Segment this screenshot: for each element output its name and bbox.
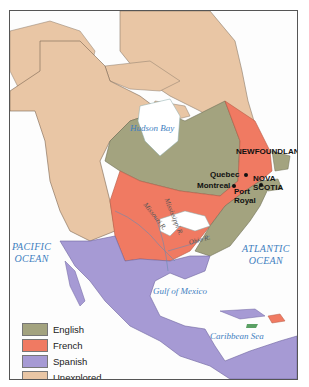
map-frame: Hudson Bay PACIFIC OCEAN ATLANTIC OCEAN …	[9, 10, 298, 380]
pacific-line1: PACIFIC	[12, 241, 51, 253]
port-royal-line2: Royal	[234, 196, 256, 205]
legend-label: Spanish	[53, 356, 87, 367]
nova-scotia-line2: SCOTIA	[253, 183, 283, 192]
pacific-line2: OCEAN	[12, 253, 51, 265]
legend-item-english: English	[22, 321, 102, 337]
english-swatch	[22, 323, 48, 336]
unexplored-swatch	[22, 371, 48, 381]
port-royal-label: Port Royal	[234, 187, 256, 205]
quebec-dot	[244, 173, 248, 177]
caribbean-sea-label: Caribbean Sea	[210, 331, 264, 341]
port-royal-dot	[259, 183, 263, 187]
quebec-label: Quebec	[210, 170, 239, 179]
french-swatch	[22, 339, 48, 352]
legend-item-unexplored: Unexplored	[22, 369, 102, 380]
legend-item-french: French	[22, 337, 102, 353]
legend-label: Unexplored	[53, 372, 102, 381]
nova-scotia-line1: NOVA	[253, 174, 283, 183]
atlantic-ocean-label: ATLANTIC OCEAN	[242, 243, 290, 267]
legend-label: French	[53, 340, 83, 351]
newfoundland-label: NEWFOUNDLAND	[236, 147, 298, 156]
nova-scotia-label: NOVA SCOTIA	[253, 174, 283, 192]
hispaniola-french	[268, 314, 285, 323]
spanish-swatch	[22, 355, 48, 368]
pacific-ocean-label: PACIFIC OCEAN	[12, 241, 51, 265]
cuba	[220, 309, 265, 319]
legend: English French Spanish Unexplored	[22, 321, 102, 380]
port-royal-line1: Port	[234, 187, 256, 196]
atlantic-line2: OCEAN	[242, 255, 290, 267]
gulf-of-mexico-label: Gulf of Mexico	[153, 286, 207, 296]
atlantic-line1: ATLANTIC	[242, 243, 290, 255]
legend-item-spanish: Spanish	[22, 353, 102, 369]
jamaica	[246, 324, 258, 328]
hudson-bay-label: Hudson Bay	[130, 123, 174, 133]
legend-label: English	[53, 324, 84, 335]
montreal-label: Montreal	[197, 181, 230, 190]
